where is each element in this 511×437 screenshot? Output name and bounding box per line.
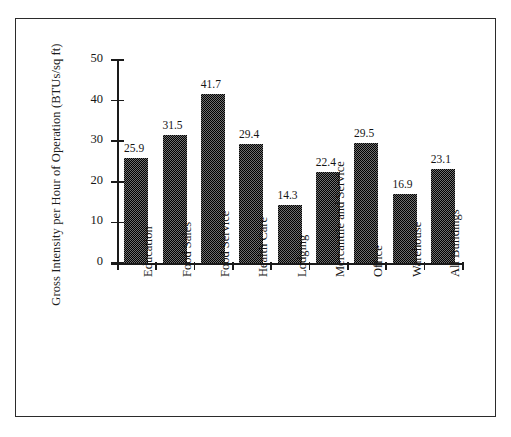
y-axis-tick-label: 40: [63, 92, 103, 107]
chart-border-frame: Gross Intensity per Hour of Operation (B…: [15, 18, 496, 417]
y-axis-line: [117, 60, 119, 263]
bar-value-label: 25.9: [109, 142, 159, 154]
y-axis-tick-label: 20: [63, 173, 103, 188]
x-axis-category-label: Mercantile and Service: [333, 161, 348, 277]
bar-value-label: 29.5: [339, 127, 389, 139]
x-axis-category-label: Education: [141, 226, 156, 277]
y-axis-tick-label: 0: [63, 254, 103, 269]
bar-value-label: 23.1: [416, 153, 466, 165]
x-axis-category-label: Lodging: [295, 235, 310, 277]
y-axis-tick-label: 30: [63, 132, 103, 147]
y-axis-title: Gross Intensity per Hour of Operation (B…: [49, 25, 64, 325]
bar-value-label: 41.7: [186, 78, 236, 90]
y-axis-tick-mark: [111, 59, 124, 61]
x-axis-category-label: Warehouse: [410, 222, 425, 277]
x-axis-category-label: All Buildings: [448, 209, 463, 277]
bar-value-label: 31.5: [148, 119, 198, 131]
y-axis-tick-mark: [111, 100, 124, 102]
x-axis-category-label: Office: [371, 245, 386, 277]
bar-value-label: 14.3: [263, 189, 313, 201]
y-axis-tick-mark: [111, 181, 124, 183]
y-axis-tick-mark: [111, 222, 124, 224]
bar-value-label: 16.9: [378, 178, 428, 190]
bar-value-label: 29.4: [224, 128, 274, 140]
x-axis-tick-mark: [117, 262, 119, 270]
y-axis-tick-label: 10: [63, 213, 103, 228]
bar-chart-figure: Gross Intensity per Hour of Operation (B…: [0, 0, 511, 437]
plot-area: 01020304050 25.931.541.729.414.322.429.5…: [117, 60, 462, 263]
x-axis-category-label: Food Service: [218, 211, 233, 277]
x-axis-category-label: Food Sales: [180, 222, 195, 277]
x-axis-category-label: Health Care: [256, 217, 271, 277]
y-axis-tick-label: 50: [63, 51, 103, 66]
